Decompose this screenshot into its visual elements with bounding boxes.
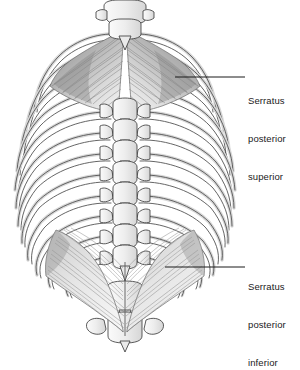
label-spi-line3: inferior xyxy=(248,357,286,370)
label-sps-line1: Serratus xyxy=(248,95,286,108)
label-serratus-posterior-superior: Serratus posterior superior xyxy=(248,70,286,209)
thoracic-vertebrae xyxy=(100,98,150,281)
label-sps-line2: posterior xyxy=(248,133,286,146)
label-spi-line1: Serratus xyxy=(248,281,286,294)
label-spi-line2: posterior xyxy=(248,319,286,332)
label-serratus-posterior-inferior: Serratus posterior inferior xyxy=(248,256,286,370)
label-sps-line3: superior xyxy=(248,171,286,184)
